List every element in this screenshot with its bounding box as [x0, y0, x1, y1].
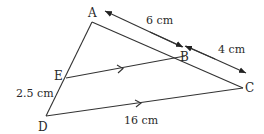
measurement-bc: 4 cm	[218, 43, 246, 56]
triangle-diagram: A B C E D 6 cm 4 cm 2.5 cm 16 cm	[0, 0, 264, 134]
point-label-b: B	[180, 50, 189, 64]
segment-dc	[46, 88, 243, 116]
point-label-d: D	[38, 120, 48, 134]
segment-ad	[46, 22, 92, 116]
point-label-c: C	[245, 81, 254, 95]
dimension-arrow-bc-start-icon	[185, 46, 215, 59]
measurement-ed: 2.5 cm	[16, 87, 54, 100]
point-label-e: E	[54, 69, 63, 83]
dimension-arrow-ab-end-icon	[150, 32, 183, 47]
measurement-dc: 16 cm	[124, 114, 159, 127]
point-label-a: A	[87, 6, 97, 20]
parallel-marker-eb-icon	[117, 65, 123, 73]
segment-eb	[66, 56, 185, 78]
measurement-ab: 6 cm	[146, 14, 174, 27]
